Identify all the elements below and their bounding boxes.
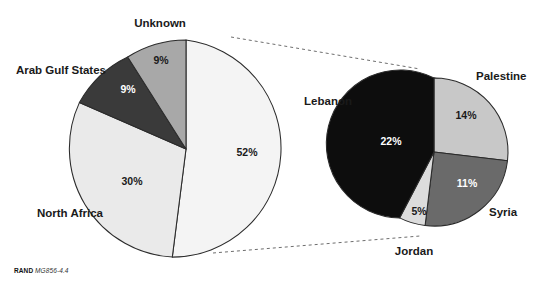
right-pct-jordan: 5% xyxy=(411,205,427,217)
left-slice-levant[interactable] xyxy=(172,40,281,257)
right-label-jordan: Jordan xyxy=(395,245,433,257)
explosion-connector-bottom xyxy=(213,236,420,253)
source-note: RAND MG856-4.4 xyxy=(14,267,69,274)
left-pct-levant: 52% xyxy=(236,146,258,158)
source-brand: RAND xyxy=(14,267,33,274)
source-identifier: MG856-4.4 xyxy=(35,267,68,274)
pie-chart-figure: 52% 30% 9% 9% Unknown Arab Gulf States N… xyxy=(0,0,540,292)
right-pie-chart: 14% 11% 5% 22% Palestine Syria Jordan Le… xyxy=(304,70,526,257)
right-pct-lebanon: 22% xyxy=(380,135,402,147)
left-pie-chart: 52% 30% 9% 9% Unknown Arab Gulf States N… xyxy=(16,17,281,257)
right-pct-palestine: 14% xyxy=(455,109,477,121)
right-pct-syria: 11% xyxy=(457,177,478,189)
right-label-lebanon: Lebanon xyxy=(304,95,352,107)
right-label-palestine: Palestine xyxy=(476,70,527,82)
chart-canvas: 52% 30% 9% 9% Unknown Arab Gulf States N… xyxy=(0,0,540,292)
left-label-arab-gulf-states: Arab Gulf States xyxy=(16,64,106,76)
left-pct-north-africa: 30% xyxy=(121,175,143,187)
left-pct-unknown: 9% xyxy=(153,54,169,66)
right-label-syria: Syria xyxy=(489,206,518,218)
left-label-unknown: Unknown xyxy=(134,17,186,29)
explosion-connector-top xyxy=(231,37,420,69)
left-label-north-africa: North Africa xyxy=(37,207,104,219)
left-pct-arab-gulf-states: 9% xyxy=(120,83,136,95)
